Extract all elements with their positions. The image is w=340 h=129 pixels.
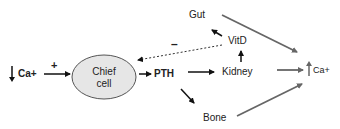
minus-sign: – xyxy=(171,38,178,50)
edge-pth-bone xyxy=(181,89,194,103)
up-arrow-icon xyxy=(306,61,312,76)
bone-label: Bone xyxy=(203,113,226,123)
edge-vitd-chief-dashed xyxy=(138,45,222,60)
gut-label: Gut xyxy=(189,10,205,20)
chief-cell-line2: cell xyxy=(72,78,136,90)
high-ca-label: Ca+ xyxy=(313,66,330,75)
edge-gut-highca xyxy=(222,15,297,52)
edge-bone-highca xyxy=(237,84,302,116)
chief-cell-node: Chief cell xyxy=(72,55,136,100)
vitd-label: VitD xyxy=(228,36,247,46)
kidney-label: Kidney xyxy=(222,67,253,77)
edge-vitd-gut xyxy=(212,30,222,36)
chief-cell-line1: Chief xyxy=(72,66,136,78)
low-ca-label: Ca+ xyxy=(18,69,37,79)
plus-sign: + xyxy=(51,60,57,71)
pth-label: PTH xyxy=(154,69,174,79)
down-arrow-icon xyxy=(9,66,15,82)
